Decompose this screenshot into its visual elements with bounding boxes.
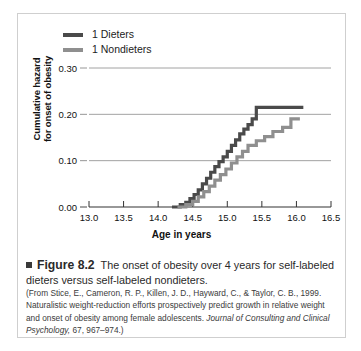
y-tick-labels: 0.000.100.200.30 (59, 63, 88, 213)
y-axis-title: Cumulative hazardfor onset of obesity (31, 39, 53, 159)
x-tick-label: 13.0 (80, 212, 99, 223)
x-tick-labels: 13.013.514.014.515.015.516.016.5 (80, 212, 341, 223)
citation-text-2: 67, 967–974.) (70, 325, 124, 335)
caption-main-line: Figure 8.2 The onset of obesity over 4 y… (26, 258, 339, 287)
x-tick-label: 14.0 (149, 212, 168, 223)
y-axis-title-line1: Cumulative hazard (31, 39, 42, 159)
square-bullet-icon (26, 262, 32, 268)
x-tick-label: 15.0 (218, 212, 237, 223)
y-tick-label: 0.10 (59, 155, 78, 166)
plot-area: 0.000.100.200.30 13.013.514.014.515.015.… (18, 14, 345, 264)
chart-svg: 0.000.100.200.30 13.013.514.014.515.015.… (18, 14, 345, 229)
y-axis-title-line2: for onset of obesity (42, 39, 53, 159)
x-tick-label: 14.5 (183, 212, 202, 223)
gridlines (89, 68, 331, 161)
x-tick-label: 16.5 (322, 212, 341, 223)
figure-caption: Figure 8.2 The onset of obesity over 4 y… (26, 258, 339, 337)
x-tick-label: 15.5 (253, 212, 272, 223)
figure-citation: (From Stice, E., Cameron, R. P., Killen,… (26, 287, 339, 337)
figure-number: Figure 8.2 (37, 258, 95, 272)
y-tick-label: 0.30 (59, 63, 78, 74)
x-tick-label: 16.0 (287, 212, 306, 223)
y-tick-label: 0.20 (59, 109, 78, 120)
y-tick-label: 0.00 (59, 202, 78, 213)
figure-container: 1 Dieters 1 Nondieters 0.000.100.200.30 … (17, 13, 346, 338)
x-axis (89, 201, 331, 207)
x-axis-title: Age in years (18, 229, 345, 240)
data-series (172, 107, 303, 207)
x-tick-label: 13.5 (114, 212, 133, 223)
